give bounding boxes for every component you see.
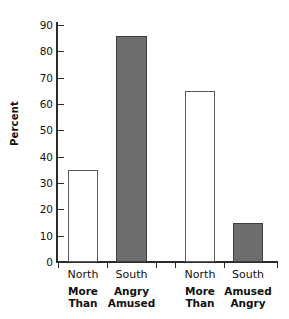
- x-group-label-line2: Amused: [97, 297, 167, 309]
- y-tick-mark: [58, 183, 64, 184]
- y-tick-mark: [58, 157, 64, 158]
- y-tick-label: 90: [23, 20, 53, 30]
- y-tick-label: 80: [23, 46, 53, 56]
- bar-south-3: [233, 223, 263, 263]
- y-tick-mark: [58, 51, 64, 52]
- x-category-label: South: [102, 268, 162, 281]
- y-tick-label: 20: [23, 204, 53, 214]
- bar-north-2: [185, 91, 215, 262]
- y-tick-mark: [58, 130, 64, 131]
- x-category-label: South: [218, 268, 278, 281]
- y-tick-label: 40: [23, 152, 53, 162]
- bar-chart: Percent 9080706050403020100 NorthMoreTha…: [0, 0, 289, 319]
- y-tick-label: 30: [23, 178, 53, 188]
- y-tick-label: 60: [23, 99, 53, 109]
- y-tick-mark: [58, 25, 64, 26]
- x-group-label-line1: Angry: [97, 285, 167, 297]
- y-tick-label: 70: [23, 73, 53, 83]
- y-tick-mark: [58, 78, 64, 79]
- x-group-label-line2: Angry: [213, 297, 283, 309]
- y-tick-mark: [58, 236, 64, 237]
- y-axis-line: [56, 22, 58, 263]
- y-tick-label: 0: [23, 257, 53, 267]
- bar-north-0: [68, 170, 98, 262]
- y-tick-mark: [58, 209, 64, 210]
- y-tick-mark: [58, 104, 64, 105]
- y-axis-title: Percent: [9, 94, 20, 154]
- y-tick-label: 10: [23, 231, 53, 241]
- bar-south-1: [116, 36, 147, 262]
- x-group-label-line1: Amused: [213, 285, 283, 297]
- y-tick-label: 50: [23, 125, 53, 135]
